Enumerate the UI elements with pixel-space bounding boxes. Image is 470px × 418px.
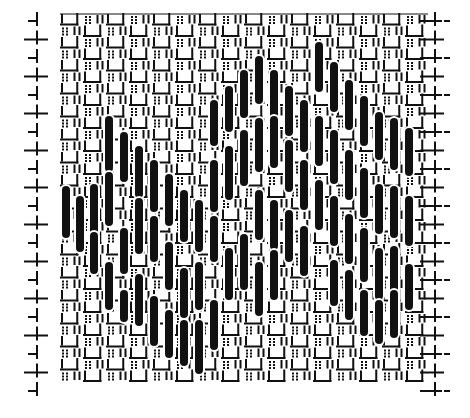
- pattern-canvas: [0, 0, 470, 418]
- stitch-pattern-figure: Needlework stitch pattern: woven ground …: [0, 0, 470, 418]
